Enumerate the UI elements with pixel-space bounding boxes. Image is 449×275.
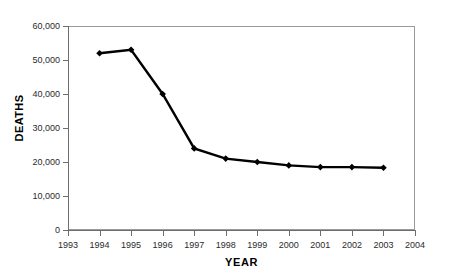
x-axis-tick <box>289 231 290 236</box>
line-chart: 010,00020,00030,00040,00050,00060,000 19… <box>0 0 449 275</box>
y-axis-tick-label: 50,000 <box>14 56 60 65</box>
y-axis-tick <box>63 60 69 61</box>
plot-area <box>68 26 415 230</box>
y-axis-tick-label: 10,000 <box>14 192 60 201</box>
x-axis-tick <box>131 231 132 236</box>
y-axis-tick-label: 20,000 <box>14 158 60 167</box>
y-axis-tick <box>63 196 69 197</box>
x-axis-tick <box>320 231 321 236</box>
x-axis-tick <box>383 231 384 236</box>
y-axis-tick-label: 0 <box>14 226 60 235</box>
y-axis-tick <box>63 128 69 129</box>
x-axis-tick <box>100 231 101 236</box>
x-axis-tick <box>415 231 416 236</box>
x-axis-tick-label: 2004 <box>395 240 435 250</box>
x-axis-tick <box>194 231 195 236</box>
x-axis-tick <box>163 231 164 236</box>
x-axis-line <box>68 230 416 231</box>
y-axis-tick-label: 60,000 <box>14 22 60 31</box>
x-axis-tick <box>352 231 353 236</box>
y-axis-tick <box>63 26 69 27</box>
y-axis-tick <box>63 162 69 163</box>
x-axis-tick <box>68 231 69 236</box>
x-axis-title: YEAR <box>68 256 415 268</box>
x-axis-tick <box>226 231 227 236</box>
x-axis-tick <box>257 231 258 236</box>
y-axis-title: DEATHS <box>13 78 25 158</box>
y-axis-tick <box>63 94 69 95</box>
